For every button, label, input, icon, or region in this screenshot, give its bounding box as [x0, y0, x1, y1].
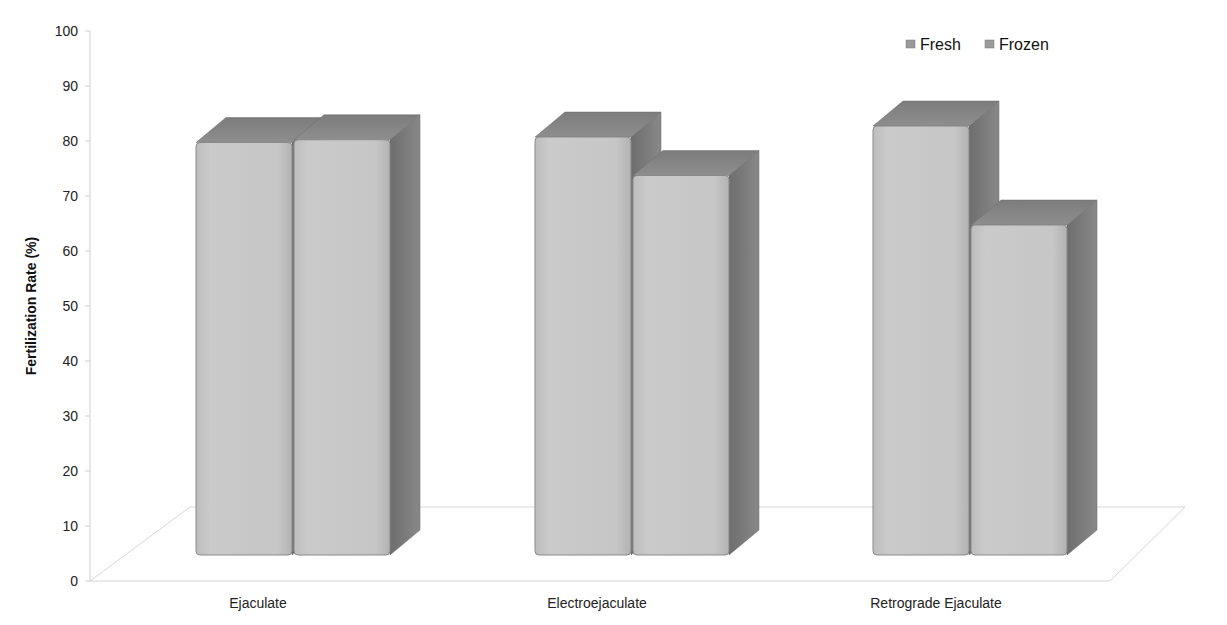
y-tick-label: 30 [62, 408, 78, 424]
x-category-label: Electroejaculate [547, 595, 647, 611]
y-axis: 0102030405060708090100 [55, 23, 90, 589]
y-tick-label: 0 [70, 573, 78, 589]
y-tick-label: 60 [62, 243, 78, 259]
y-tick-label: 10 [62, 518, 78, 534]
legend-swatch-fresh [906, 40, 915, 48]
x-axis-labels: EjaculateElectroejaculateRetrograde Ejac… [229, 595, 1002, 611]
y-axis-title: Fertilization Rate (%) [23, 237, 39, 375]
legend-label-frozen: Frozen [999, 36, 1049, 53]
bar-frozen-ejaculate [294, 115, 420, 555]
x-category-label: Retrograde Ejaculate [870, 595, 1002, 611]
bar-frozen-retrograde-ejaculate [971, 200, 1097, 555]
bar-series [196, 101, 1097, 555]
bar-frozen-electroejaculate [633, 151, 759, 556]
legend-label-fresh: Fresh [920, 36, 961, 53]
y-tick-label: 20 [62, 463, 78, 479]
y-tick-label: 100 [55, 23, 79, 39]
y-tick-label: 80 [62, 133, 78, 149]
y-tick-label: 70 [62, 188, 78, 204]
y-tick-label: 90 [62, 78, 78, 94]
legend: Fresh Frozen [906, 36, 1049, 53]
y-tick-label: 50 [62, 298, 78, 314]
legend-swatch-frozen [985, 40, 994, 48]
bar-chart: Fertilization Rate (%) 01020304050607080… [0, 0, 1227, 625]
x-category-label: Ejaculate [229, 595, 287, 611]
y-tick-label: 40 [62, 353, 78, 369]
